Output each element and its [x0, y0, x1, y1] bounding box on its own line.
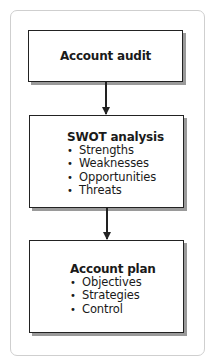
list-item: •Weaknesses [67, 157, 164, 170]
arrow-down-icon [106, 208, 108, 239]
bullet-icon: • [67, 185, 79, 197]
list-item: •Objectives [70, 276, 156, 289]
node-account-audit: Account audit [28, 30, 183, 82]
node-title: Account audit [60, 49, 151, 63]
list-item: •Strengths [67, 144, 164, 157]
arrow-down-icon [105, 82, 107, 114]
node-item-list: •Strengths •Weaknesses •Opportunities •T… [67, 144, 164, 197]
bullet-icon: • [67, 172, 79, 184]
bullet-icon: • [67, 158, 79, 170]
node-swot-analysis: SWOT analysis •Strengths •Weaknesses •Op… [29, 115, 184, 208]
list-item: •Opportunities [67, 171, 164, 184]
list-item: •Strategies [70, 289, 156, 302]
node-item-list: •Objectives •Strategies •Control [70, 276, 156, 316]
bullet-icon: • [70, 277, 82, 289]
list-item: •Threats [67, 184, 164, 197]
node-account-plan: Account plan •Objectives •Strategies •Co… [29, 240, 184, 333]
bullet-icon: • [70, 290, 82, 302]
bullet-icon: • [67, 145, 79, 157]
list-item: •Control [70, 303, 156, 316]
bullet-icon: • [70, 304, 82, 316]
